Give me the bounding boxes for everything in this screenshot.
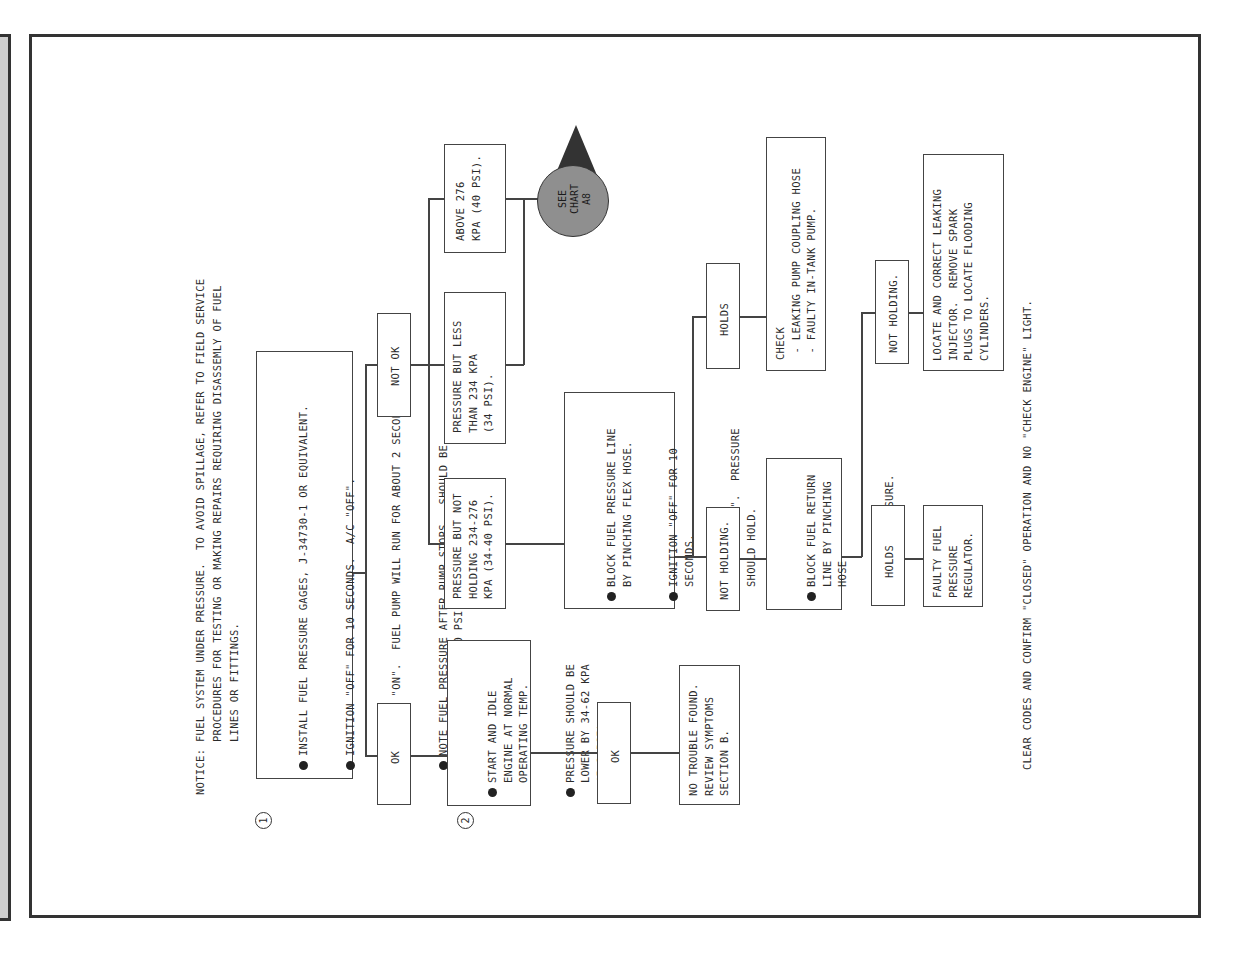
result-text: CHECK - LEAKING PUMP COUPLING HOSE - FAU… <box>773 168 820 360</box>
branch-holds-1: HOLDS <box>706 263 740 369</box>
result-text: ABOVE 276 KPA (40 PSI). <box>453 155 484 241</box>
branch-label: NOT HOLDING. <box>886 274 902 353</box>
connector <box>842 556 862 558</box>
notice-text: NOTICE: FUEL SYSTEM UNDER PRESSURE. TO A… <box>192 279 243 795</box>
connector <box>428 198 444 200</box>
connector <box>428 364 444 366</box>
branch-label: HOLDS <box>882 545 898 578</box>
connector <box>428 198 430 544</box>
result-text: NO TROUBLE FOUND. REVIEW SYMPTOMS SECTIO… <box>686 683 733 796</box>
step-2-bullet: START AND IDLE ENGINE AT NORMAL OPERATIN… <box>485 647 532 797</box>
result-block-pressure-line: BLOCK FUEL PRESSURE LINE BY PINCHING FLE… <box>564 392 675 609</box>
result-block-return-line: BLOCK FUEL RETURN LINE BY PINCHING HOSE.… <box>766 458 842 610</box>
branch-not-ok: NOT OK <box>377 313 411 417</box>
result-above-276: ABOVE 276 KPA (40 PSI). <box>444 144 506 253</box>
bullet: BLOCK FUEL PRESSURE LINE BY PINCHING FLE… <box>604 396 635 601</box>
result-text: PRESSURE BUT NOT HOLDING 234-276 KPA (34… <box>450 493 497 599</box>
result-no-trouble: NO TROUBLE FOUND. REVIEW SYMPTOMS SECTIO… <box>679 665 740 805</box>
step-2-marker: 2 <box>457 812 474 829</box>
connector <box>740 558 766 560</box>
connector <box>365 364 367 756</box>
connector <box>692 316 706 318</box>
connector <box>675 556 706 558</box>
branch-label: OK <box>608 750 624 763</box>
branch-ok-1: OK <box>377 703 411 805</box>
result-text: FAULTY FUEL PRESSURE REGULATOR. <box>930 525 977 598</box>
result-text: LOCATE AND CORRECT LEAKING INJECTOR. REM… <box>930 189 992 361</box>
result-text: PRESSURE BUT LESS THAN 234 KPA (34 PSI). <box>450 320 497 433</box>
connector <box>861 312 863 557</box>
step-1-bullet: INSTALL FUEL PRESSURE GAGES, J-34730-1 O… <box>296 360 312 770</box>
step-1-bullet: IGNITION "OFF" FOR 10 SECONDS. A/C "OFF"… <box>343 360 359 770</box>
adjacent-page-edge <box>0 34 11 921</box>
step-2-box: START AND IDLE ENGINE AT NORMAL OPERATIN… <box>447 640 531 806</box>
connector <box>428 543 444 545</box>
footer-instruction: CLEAR CODES AND CONFIRM "CLOSED" OPERATI… <box>1020 300 1036 770</box>
connector <box>365 755 377 757</box>
see-chart-label: SEE CHART A8 <box>557 169 593 229</box>
branch-label: HOLDS <box>717 303 733 336</box>
connector <box>531 752 597 754</box>
step-1-box: INSTALL FUEL PRESSURE GAGES, J-34730-1 O… <box>256 351 353 779</box>
block-pressure-bullets: BLOCK FUEL PRESSURE LINE BY PINCHING FLE… <box>573 396 790 601</box>
connector <box>905 558 923 560</box>
branch-not-holding-1: NOT HOLDING. <box>706 507 740 611</box>
connector <box>909 312 923 314</box>
result-faulty-regulator: FAULTY FUEL PRESSURE REGULATOR. <box>923 505 983 607</box>
connector <box>411 755 447 757</box>
connector <box>631 752 679 754</box>
see-chart-a8-reference[interactable]: SEE CHART A8 <box>523 125 603 241</box>
branch-label: OK <box>388 751 404 764</box>
branch-holds-2: HOLDS <box>871 505 905 606</box>
branch-label: NOT HOLDING. <box>717 521 733 600</box>
result-leaking-injector: LOCATE AND CORRECT LEAKING INJECTOR. REM… <box>923 154 1004 371</box>
connector <box>411 364 429 366</box>
result-pressure-less: PRESSURE BUT LESS THAN 234 KPA (34 PSI). <box>444 292 506 444</box>
connector <box>506 364 524 366</box>
connector <box>740 316 766 318</box>
step-1-marker: 1 <box>255 812 272 829</box>
branch-not-holding-2: NOT HOLDING. <box>875 260 909 364</box>
connector <box>692 316 694 557</box>
result-pressure-not-holding: PRESSURE BUT NOT HOLDING 234-276 KPA (34… <box>444 478 506 609</box>
connector <box>365 364 377 366</box>
bullet: BLOCK FUEL RETURN LINE BY PINCHING HOSE. <box>804 461 851 601</box>
branch-label: NOT OK <box>388 346 404 386</box>
result-check-pump: CHECK - LEAKING PUMP COUPLING HOSE - FAU… <box>766 137 826 371</box>
connector <box>506 543 564 545</box>
branch-ok-2: OK <box>597 702 631 804</box>
connector <box>861 312 875 314</box>
